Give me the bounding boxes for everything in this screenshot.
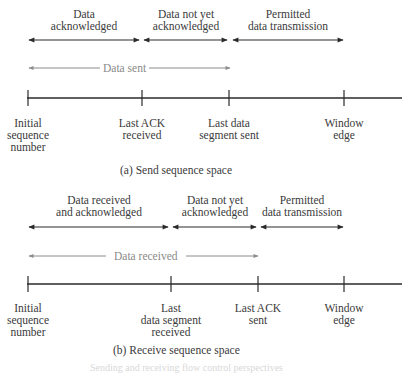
label-line: and acknowledged bbox=[44, 206, 154, 218]
receive-caption: (b) Receive sequence space bbox=[113, 344, 240, 356]
send-tick-label-last-data: Last datasegment sent bbox=[189, 117, 269, 141]
label-line: Permitted bbox=[233, 8, 343, 20]
label-line: data transmission bbox=[258, 206, 346, 218]
send-caption: (a) Send sequence space bbox=[120, 164, 232, 176]
receive-sequence-line bbox=[27, 276, 402, 292]
receive-region-label-not-acknowledged: Data not yet acknowledged bbox=[169, 194, 261, 218]
data-sent-label: Data sent bbox=[100, 62, 149, 74]
send-region-label-not-acknowledged: Data not yet acknowledged bbox=[140, 8, 232, 32]
label-line: Permitted bbox=[258, 194, 346, 206]
send-tick-label-window-edge: Windowedge bbox=[314, 117, 374, 141]
receive-region-label-acknowledged: Data received and acknowledged bbox=[44, 194, 154, 218]
send-region-label-acknowledged: Data acknowledged bbox=[34, 8, 134, 32]
label-line: acknowledged bbox=[34, 20, 134, 32]
data-received-label: Data received bbox=[106, 250, 186, 262]
receive-tick-label-window-edge: Windowedge bbox=[314, 302, 374, 326]
send-tick-label-last-ack: Last ACKreceived bbox=[107, 117, 177, 141]
receive-region-label-permitted: Permitted data transmission bbox=[258, 194, 346, 218]
figure-footer: Sending and receiving flow control persp… bbox=[0, 362, 413, 376]
label-line: Data not yet bbox=[169, 194, 261, 206]
label-line: acknowledged bbox=[140, 20, 232, 32]
receive-tick-label-last-data: Lastdata segmentreceived bbox=[131, 302, 211, 338]
receive-tick-label-initial: Initialsequencenumber bbox=[0, 302, 58, 338]
label-line: data transmission bbox=[233, 20, 343, 32]
label-line: Data bbox=[34, 8, 134, 20]
send-region-label-permitted: Permitted data transmission bbox=[233, 8, 343, 32]
label-line: acknowledged bbox=[169, 206, 261, 218]
receive-tick-label-last-ack: Last ACKsent bbox=[223, 302, 293, 326]
label-line: Data not yet bbox=[140, 8, 232, 20]
send-tick-label-initial: Initialsequencenumber bbox=[0, 117, 58, 153]
label-line: Data received bbox=[44, 194, 154, 206]
send-sequence-line bbox=[27, 90, 402, 106]
